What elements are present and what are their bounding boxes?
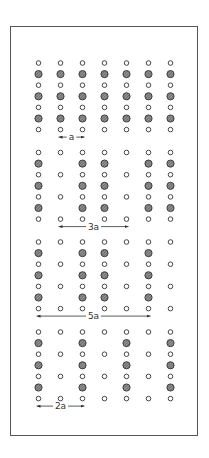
open-atom <box>58 105 63 110</box>
open-atom <box>168 284 173 289</box>
hatched-atom <box>35 250 42 257</box>
open-atom <box>168 240 173 245</box>
hatched-atom <box>167 384 174 391</box>
hatched-atom <box>35 160 42 167</box>
open-atom <box>80 105 85 110</box>
hatched-atom <box>79 384 86 391</box>
hatched-atom <box>79 160 86 167</box>
scale-labels-layer: a3a5a2a <box>37 132 151 411</box>
open-atom <box>146 240 151 245</box>
open-atom <box>146 83 151 88</box>
open-atom <box>168 352 173 357</box>
open-atom <box>36 172 41 177</box>
open-atom <box>102 195 107 200</box>
open-atom <box>102 83 107 88</box>
open-atom <box>146 195 151 200</box>
hatched-atom <box>123 71 130 78</box>
open-atom <box>36 352 41 357</box>
open-atom <box>146 217 151 222</box>
open-atom <box>80 284 85 289</box>
open-atom <box>58 352 63 357</box>
hatched-atom <box>167 340 174 347</box>
open-atom <box>124 195 129 200</box>
open-atom <box>80 374 85 379</box>
open-atom <box>168 83 173 88</box>
open-atom <box>36 127 41 132</box>
open-atom <box>58 374 63 379</box>
open-atom <box>58 127 63 132</box>
open-atom <box>58 217 63 222</box>
lattice-section-4 <box>35 330 174 401</box>
hatched-atom <box>35 340 42 347</box>
hatched-atom <box>145 182 152 189</box>
open-atom <box>146 284 151 289</box>
hatched-atom <box>145 294 152 301</box>
hatched-atom <box>35 115 42 122</box>
open-atom <box>168 330 173 335</box>
open-atom <box>102 284 107 289</box>
hatched-atom <box>145 115 152 122</box>
open-atom <box>102 172 107 177</box>
scale-bar-2a: 2a <box>37 401 85 411</box>
open-atom <box>58 83 63 88</box>
hatched-atom <box>35 272 42 279</box>
open-atom <box>124 61 129 66</box>
hatched-atom <box>145 93 152 100</box>
open-atom <box>58 262 63 267</box>
open-atom <box>80 262 85 267</box>
open-atom <box>124 217 129 222</box>
open-atom <box>146 150 151 155</box>
open-atom <box>36 150 41 155</box>
open-atom <box>80 217 85 222</box>
open-atom <box>36 83 41 88</box>
hatched-atom <box>145 250 152 257</box>
hatched-atom <box>167 160 174 167</box>
open-atom <box>36 396 41 401</box>
open-atom <box>102 374 107 379</box>
atoms-layer <box>35 61 174 401</box>
open-atom <box>168 172 173 177</box>
open-atom <box>146 172 151 177</box>
open-atom <box>146 396 151 401</box>
hatched-atom <box>145 272 152 279</box>
open-atom <box>168 217 173 222</box>
hatched-atom <box>35 71 42 78</box>
hatched-atom <box>79 182 86 189</box>
open-atom <box>80 127 85 132</box>
hatched-atom <box>145 204 152 211</box>
open-atom <box>146 61 151 66</box>
open-atom <box>102 127 107 132</box>
hatched-atom <box>79 71 86 78</box>
hatched-atom <box>35 204 42 211</box>
open-atom <box>58 306 63 311</box>
open-atom <box>102 150 107 155</box>
hatched-atom <box>123 362 130 369</box>
open-atom <box>36 105 41 110</box>
open-atom <box>36 284 41 289</box>
hatched-atom <box>79 115 86 122</box>
open-atom <box>58 61 63 66</box>
hatched-atom <box>79 93 86 100</box>
hatched-atom <box>79 294 86 301</box>
lattice-section-2 <box>35 150 174 221</box>
hatched-atom <box>101 294 108 301</box>
lattice-section-3 <box>35 240 173 311</box>
hatched-atom <box>167 93 174 100</box>
open-atom <box>168 262 173 267</box>
scale-bar-a: a <box>59 132 85 142</box>
open-atom <box>146 330 151 335</box>
scale-label: a <box>69 132 75 142</box>
open-atom <box>124 374 129 379</box>
hatched-atom <box>123 115 130 122</box>
open-atom <box>146 374 151 379</box>
open-atom <box>58 150 63 155</box>
open-atom <box>102 330 107 335</box>
open-atom <box>36 306 41 311</box>
open-atom <box>124 284 129 289</box>
open-atom <box>124 352 129 357</box>
hatched-atom <box>167 204 174 211</box>
hatched-atom <box>145 71 152 78</box>
open-atom <box>168 374 173 379</box>
open-atom <box>36 374 41 379</box>
hatched-atom <box>57 93 64 100</box>
